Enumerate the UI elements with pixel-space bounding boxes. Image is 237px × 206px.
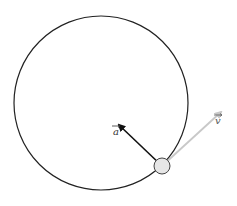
velocity-label: v [214,114,222,127]
acceleration-vector [119,125,162,166]
svg-text:a: a [113,126,119,137]
acceleration-label: a [112,125,120,138]
moving-body [154,158,170,174]
velocity-vector [162,112,221,166]
circular-motion-diagram: a v [0,0,237,206]
svg-text:v: v [215,115,221,126]
